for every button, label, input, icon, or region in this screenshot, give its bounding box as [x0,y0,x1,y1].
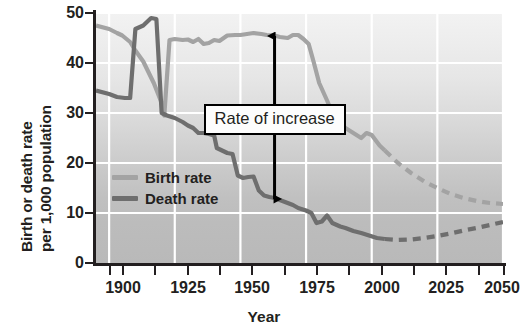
x-tick-label-1950: 1950 [234,280,270,296]
y-axis-label-line-1: Birth or death rate [18,121,36,252]
x-tick-mark-2050 [503,266,505,275]
y-tick-label-0: 0 [54,255,84,271]
x-tick-label-2000: 2000 [364,280,400,296]
x-tick-mark-minor-5 [348,266,350,275]
y-tick-label-50: 50 [54,5,84,21]
x-tick-label-1900: 1900 [105,280,141,296]
legend-swatch-birth-rate [112,175,138,180]
plot-area [96,13,503,263]
y-axis-label: Birth or death rate per 1,000 population [0,0,46,268]
x-tick-mark-minor-7 [478,266,480,275]
x-tick-mark-2025 [445,266,447,275]
legend-swatch-death-rate [112,196,138,201]
x-tick-mark-2000 [381,266,383,275]
rate-of-increase-label: Rate of increase [204,104,346,135]
x-tick-mark-1950 [251,266,253,275]
y-tick-mark-40 [85,62,94,64]
series-line-projected-death-rate [385,222,503,240]
y-axis-tick-labels: 50 40 30 20 10 0 [48,0,84,270]
series-line-projected-birth-rate [385,151,503,205]
plot-svg [96,13,503,263]
x-tick-label-2025: 2025 [428,280,464,296]
x-tick-mark-1975 [316,266,318,275]
x-tick-label-2050: 2050 [484,280,520,296]
x-tick-label-1975: 1975 [299,280,335,296]
y-tick-mark-50 [85,12,94,14]
legend-item-death-rate: Death rate [112,188,218,209]
y-tick-label-10: 10 [54,205,84,221]
x-axis-label: Year [0,308,528,326]
y-tick-mark-0 [85,262,94,264]
legend-label-death-rate: Death rate [145,191,218,206]
x-axis-tick-labels: 1900 1925 1950 1975 2000 2025 2050 [0,280,528,302]
y-tick-mark-30 [85,112,94,114]
y-tick-label-20: 20 [54,155,84,171]
y-tick-mark-10 [85,212,94,214]
x-tick-mark-minor-1 [109,266,111,275]
x-tick-mark-1900 [122,266,124,275]
x-tick-mark-minor-4 [284,266,286,275]
x-tick-mark-minor-6 [413,266,415,275]
chart-figure: Birth or death rate per 1,000 population… [0,0,528,336]
chart-legend: Birth rate Death rate [112,167,218,209]
x-tick-label-1925: 1925 [170,280,206,296]
legend-item-birth-rate: Birth rate [112,167,218,188]
y-tick-label-40: 40 [54,55,84,71]
y-tick-mark-20 [85,162,94,164]
y-tick-label-30: 30 [54,105,84,121]
x-tick-mark-minor-2 [154,266,156,275]
x-tick-mark-minor-3 [219,266,221,275]
x-tick-mark-1925 [187,266,189,275]
legend-label-birth-rate: Birth rate [145,170,212,185]
